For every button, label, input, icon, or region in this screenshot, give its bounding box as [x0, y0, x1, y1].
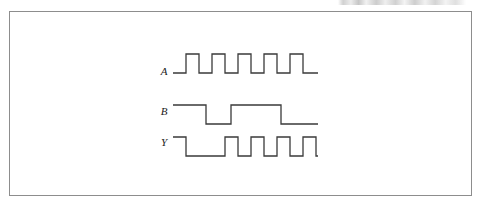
- figure-page: A B Y: [0, 0, 482, 207]
- waveform-y: Y: [161, 136, 318, 156]
- waveform-y-label: Y: [161, 136, 169, 148]
- waveform-a: A: [160, 54, 318, 77]
- waveform-a-trace: [173, 54, 318, 73]
- waveform-b: B: [161, 105, 318, 124]
- waveform-a-label: A: [160, 65, 168, 77]
- timing-diagram: A B Y: [9, 11, 472, 196]
- waveform-y-trace: [173, 137, 318, 156]
- scan-artifact: [338, 0, 466, 5]
- waveform-b-trace: [173, 105, 318, 124]
- waveform-b-label: B: [161, 105, 168, 117]
